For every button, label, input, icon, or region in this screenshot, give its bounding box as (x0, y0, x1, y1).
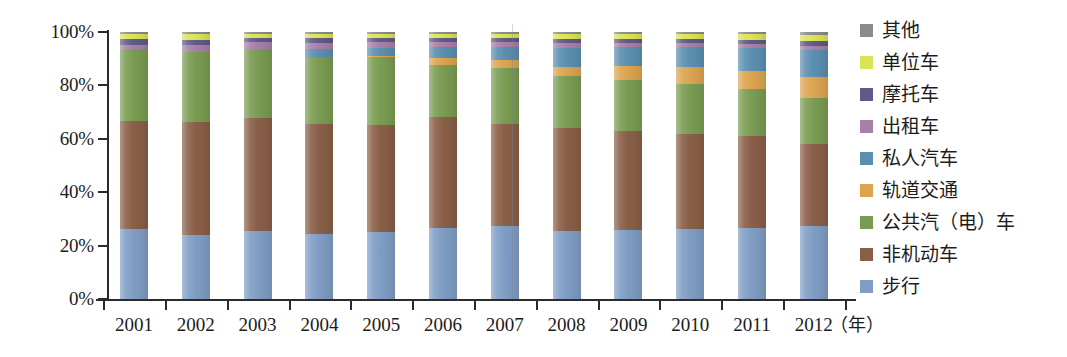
x-axis-unit-label: （年） (830, 315, 884, 335)
bar-segment (305, 49, 333, 56)
legend-label: 私人汽车 (882, 148, 958, 168)
bar-segment (614, 66, 642, 80)
bar-segment (738, 71, 766, 89)
bar-segment (738, 48, 766, 71)
y-axis-tick-label: 0% (8, 289, 94, 308)
x-axis-tick-label: 2008 (537, 315, 597, 335)
legend-item: 摩托车 (860, 78, 1015, 110)
bar-segment (800, 226, 828, 299)
bar-segment (800, 50, 828, 77)
x-axis-tick-label: 2009 (598, 315, 658, 335)
bar-segment (491, 60, 519, 68)
page-fold-artifact (512, 24, 513, 302)
bar-segment (553, 231, 581, 299)
bar-segment (429, 117, 457, 228)
x-axis-tick-label: 2005 (351, 315, 411, 335)
x-axis-tick (659, 301, 661, 310)
bar-segment (429, 228, 457, 299)
x-axis-tick (721, 301, 723, 310)
bar-segment (800, 77, 828, 98)
x-axis-tick (165, 301, 167, 310)
y-axis-tick-label: 40% (8, 182, 94, 201)
x-axis-tick-label: 2010 (660, 315, 720, 335)
bar-2012 (800, 32, 828, 299)
x-axis-tick-label: 2007 (475, 315, 535, 335)
x-axis-tick-label: 2001 (104, 315, 164, 335)
y-axis-tick-label: 20% (8, 236, 94, 255)
legend-swatch-icon (860, 248, 873, 261)
bar-segment (429, 47, 457, 58)
x-axis-line (96, 299, 856, 301)
bar-2002 (182, 32, 210, 299)
legend-label: 其他 (882, 20, 920, 40)
bar-segment (120, 49, 148, 121)
legend-swatch-icon (860, 24, 873, 37)
bar-2011 (738, 32, 766, 299)
bar-segment (244, 118, 272, 231)
bar-segment (738, 89, 766, 136)
bar-segment (429, 65, 457, 117)
legend-label: 出租车 (882, 116, 939, 136)
bar-2010 (676, 32, 704, 299)
legend-label: 公共汽（电）车 (882, 212, 1015, 232)
legend-item: 私人汽车 (860, 142, 1015, 174)
legend-swatch-icon (860, 120, 873, 133)
x-axis-tick-label: 2006 (413, 315, 473, 335)
x-axis-tick (227, 301, 229, 310)
bar-2006 (429, 32, 457, 299)
bar-segment (676, 67, 704, 84)
bar-segment (182, 45, 210, 52)
bar-segment (491, 47, 519, 60)
bar-segment (614, 131, 642, 230)
bar-segment (120, 121, 148, 229)
bar-segment (614, 230, 642, 299)
bar-2003 (244, 32, 272, 299)
legend-swatch-icon (860, 152, 873, 165)
bar-segment (676, 84, 704, 134)
bar-segment (182, 52, 210, 121)
bar-segment (367, 48, 395, 56)
legend-item: 步行 (860, 270, 1015, 302)
legend-label: 步行 (882, 276, 920, 296)
bar-2009 (614, 32, 642, 299)
legend-swatch-icon (860, 56, 873, 69)
legend-label: 摩托车 (882, 84, 939, 104)
legend-label: 非机动车 (882, 244, 958, 264)
y-axis-tick-label: 80% (8, 75, 94, 94)
legend-item: 其他 (860, 14, 1015, 46)
bar-segment (429, 58, 457, 65)
legend-item: 公共汽（电）车 (860, 206, 1015, 238)
x-axis-tick-label: 2011 (722, 315, 782, 335)
bar-segment (491, 226, 519, 299)
x-axis-tick-label: 2003 (228, 315, 288, 335)
bar-2005 (367, 32, 395, 299)
legend-item: 轨道交通 (860, 174, 1015, 206)
bar-segment (305, 57, 333, 125)
bar-segment (182, 235, 210, 299)
chart-legend: 其他单位车摩托车出租车私人汽车轨道交通公共汽（电）车非机动车步行 (860, 14, 1015, 302)
legend-label: 单位车 (882, 52, 939, 72)
x-axis-tick (598, 301, 600, 310)
bar-2001 (120, 32, 148, 299)
bar-segment (367, 57, 395, 124)
x-axis-tick-label: 2004 (289, 315, 349, 335)
legend-swatch-icon (860, 216, 873, 229)
x-axis-tick (289, 301, 291, 310)
bar-segment (676, 134, 704, 229)
bar-segment (676, 229, 704, 299)
bar-segment (676, 47, 704, 67)
bar-segment (553, 128, 581, 231)
legend-item: 非机动车 (860, 238, 1015, 270)
bar-segment (120, 229, 148, 299)
x-axis-tick (783, 301, 785, 310)
y-axis-tick-label: 60% (8, 129, 94, 148)
bar-segment (800, 144, 828, 227)
bar-segment (491, 68, 519, 124)
legend-swatch-icon (860, 184, 873, 197)
bar-segment (244, 42, 272, 49)
stacked-bar-chart: 0%20%40%60%80%100% 200120022003200420052… (0, 0, 1067, 357)
bar-segment (305, 124, 333, 233)
bar-segment (244, 49, 272, 118)
bar-segment (305, 234, 333, 299)
legend-swatch-icon (860, 88, 873, 101)
